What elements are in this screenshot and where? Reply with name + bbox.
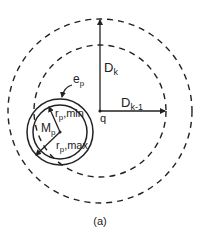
q-label: q [100,112,106,124]
rmax-label: rp,max [56,139,88,154]
mp-label: Mp [41,121,56,137]
dk-1-label: Dk-1 [121,95,143,112]
edge-pointer-arrow [62,85,72,97]
figure-caption: (a) [93,215,106,227]
dk-label: Dk [104,60,118,77]
ep-label: ep [73,72,85,88]
rmin-label: rp,min [55,107,84,122]
particle-annulus-diagram: Dk Dk-1 q ep Mp rp,min rp,max (a) [0,0,201,238]
